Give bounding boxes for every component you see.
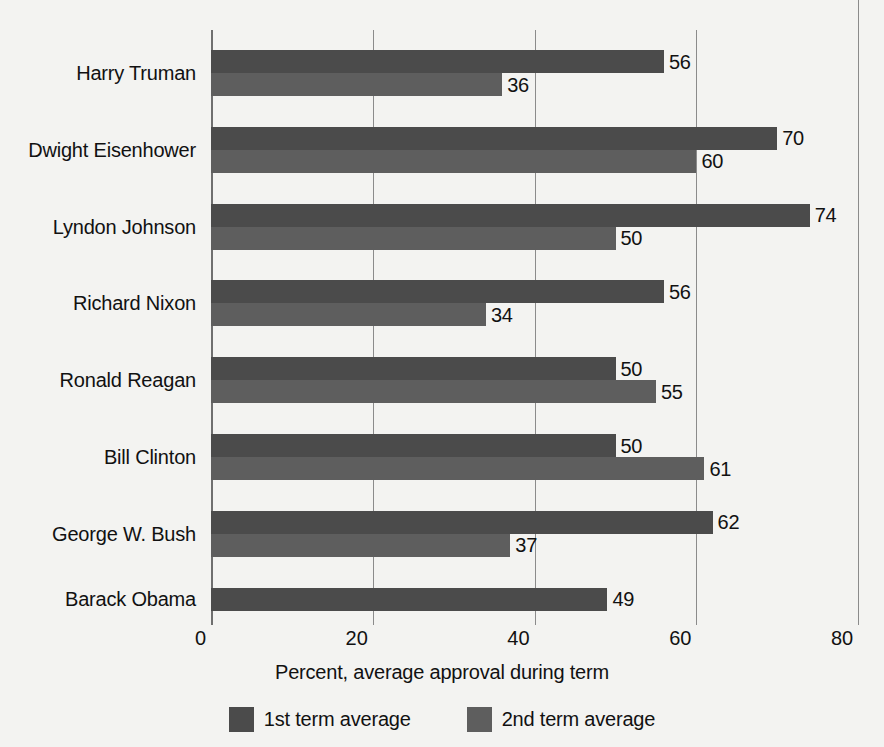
- gridline-60: [696, 30, 697, 625]
- category-label: Lyndon Johnson: [0, 216, 196, 239]
- bar-value-label: 55: [661, 382, 683, 402]
- category-label: Richard Nixon: [0, 292, 196, 315]
- bar: 70: [211, 127, 777, 150]
- bar-value-label: 56: [669, 282, 691, 302]
- x-axis-title: Percent, average approval during term: [0, 661, 884, 684]
- category-label: Barack Obama: [0, 588, 196, 611]
- bar-value-label: 36: [507, 75, 529, 95]
- bar: 61: [211, 457, 704, 480]
- bar: 34: [211, 303, 486, 326]
- category-label: Ronald Reagan: [0, 369, 196, 392]
- legend-label: 1st term average: [264, 708, 411, 731]
- bar-value-label: 62: [718, 512, 740, 532]
- chart-legend: 1st term average2nd term average: [0, 707, 884, 732]
- x-tick-label: 60: [669, 627, 696, 650]
- bar-value-label: 50: [621, 228, 643, 248]
- bar: 50: [211, 434, 616, 457]
- bar: 49: [211, 588, 607, 611]
- bar-value-label: 61: [709, 459, 731, 479]
- bar: 62: [211, 511, 713, 534]
- x-tick-label: 80: [831, 627, 858, 650]
- legend-item[interactable]: 2nd term average: [467, 707, 656, 732]
- legend-swatch-icon: [229, 707, 254, 732]
- category-label: Dwight Eisenhower: [0, 139, 196, 162]
- category-label: George W. Bush: [0, 523, 196, 546]
- bar-value-label: 50: [621, 436, 643, 456]
- bar-value-label: 37: [515, 535, 537, 555]
- bar: 36: [211, 73, 502, 96]
- bar: 37: [211, 534, 510, 557]
- gridline-80: [858, 0, 859, 625]
- x-tick-label: 20: [346, 627, 373, 650]
- bar-value-label: 60: [701, 151, 723, 171]
- x-tick-label: 0: [195, 627, 211, 650]
- bar: 60: [211, 150, 696, 173]
- bar-value-label: 56: [669, 52, 691, 72]
- bar: 55: [211, 380, 656, 403]
- legend-label: 2nd term average: [502, 708, 656, 731]
- bar-value-label: 74: [815, 205, 837, 225]
- bar: 56: [211, 50, 664, 73]
- approval-rating-bar-chart: 563670607450563450555061623749 Harry Tru…: [0, 0, 884, 747]
- x-tick-label: 40: [507, 627, 534, 650]
- category-label: Harry Truman: [0, 62, 196, 85]
- bar: 50: [211, 357, 616, 380]
- bar-value-label: 70: [782, 128, 804, 148]
- legend-swatch-icon: [467, 707, 492, 732]
- bar-value-label: 50: [621, 359, 643, 379]
- bar: 74: [211, 204, 810, 227]
- category-label: Bill Clinton: [0, 446, 196, 469]
- bar-value-label: 49: [612, 589, 634, 609]
- bar-value-label: 34: [491, 305, 513, 325]
- bar: 50: [211, 227, 616, 250]
- bar: 56: [211, 280, 664, 303]
- legend-item[interactable]: 1st term average: [229, 707, 411, 732]
